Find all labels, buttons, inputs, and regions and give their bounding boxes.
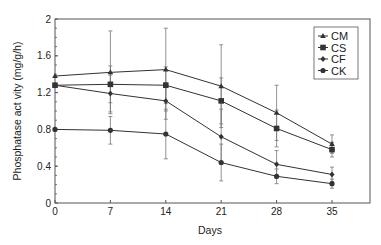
series-line-cs bbox=[55, 84, 332, 149]
data-point-ck bbox=[219, 160, 224, 165]
series-line-cm bbox=[55, 70, 332, 145]
legend: CMCSCFCK bbox=[314, 27, 358, 79]
legend-label-ck: CK bbox=[331, 65, 347, 77]
y-tick-label: 1.2 bbox=[37, 87, 51, 98]
x-tick-label: 14 bbox=[160, 206, 172, 217]
data-point-cs bbox=[163, 82, 169, 88]
data-point-cm bbox=[329, 141, 335, 146]
data-point-ck bbox=[52, 127, 57, 132]
legend-label-cm: CM bbox=[331, 30, 348, 42]
series-lines bbox=[55, 70, 332, 184]
x-tick-label: 35 bbox=[326, 206, 338, 217]
data-point-cf bbox=[330, 171, 335, 177]
series-line-ck bbox=[55, 129, 332, 183]
y-tick-label: 0.8 bbox=[37, 124, 51, 135]
y-tick-label: 1.6 bbox=[37, 50, 51, 61]
data-point-ck bbox=[274, 174, 279, 179]
data-point-cf bbox=[274, 161, 279, 167]
data-point-cf bbox=[219, 134, 224, 140]
phosphatase-line-chart: 00.40.81.21.62 0714212835 Days Phosphata… bbox=[0, 0, 381, 245]
legend-marker-ck-icon bbox=[320, 68, 325, 73]
x-tick-label: 7 bbox=[108, 206, 114, 217]
data-point-cs bbox=[329, 147, 335, 153]
data-point-ck bbox=[329, 181, 334, 186]
data-point-cm bbox=[163, 67, 169, 72]
data-point-cs bbox=[274, 126, 280, 132]
x-tick-label: 0 bbox=[52, 206, 58, 217]
y-tick-label: 0.4 bbox=[37, 161, 51, 172]
y-axis-title: Phosphatase act vity (mg/g/h) bbox=[11, 42, 23, 181]
data-point-cs bbox=[108, 82, 114, 88]
legend-marker-cs-icon bbox=[320, 45, 326, 51]
y-tick-label: 2 bbox=[45, 14, 51, 25]
data-point-cs bbox=[218, 98, 224, 104]
y-tick-label: 0 bbox=[45, 198, 51, 209]
x-axis-title: Days bbox=[198, 224, 222, 236]
data-point-ck bbox=[108, 128, 113, 133]
x-tick-label: 28 bbox=[271, 206, 283, 217]
x-tick-label: 21 bbox=[216, 206, 228, 217]
legend-label-cs: CS bbox=[331, 42, 346, 54]
data-point-cf bbox=[163, 98, 168, 104]
legend-label-cf: CF bbox=[331, 53, 346, 65]
data-point-ck bbox=[163, 131, 168, 136]
data-point-cf bbox=[108, 91, 113, 97]
